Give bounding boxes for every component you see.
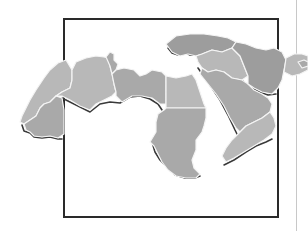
map-figure: [0, 0, 308, 231]
region-sudan: [150, 108, 206, 178]
region-egypt: [166, 74, 206, 108]
map-svg: [0, 0, 308, 231]
region-libya: [112, 68, 166, 104]
